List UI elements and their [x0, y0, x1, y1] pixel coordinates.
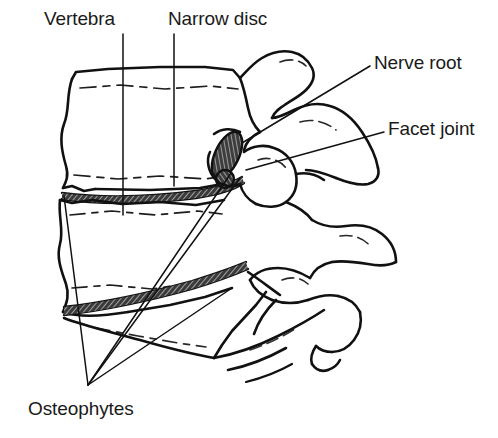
transverse-process [254, 300, 361, 371]
lower-body-endplate-texture [70, 211, 222, 289]
label-narrow-disc: Narrow disc [168, 9, 267, 28]
figure-root: Vertebra Narrow disc Nerve root Facet jo… [0, 0, 498, 438]
leader-nerve-root [242, 66, 370, 143]
spinous-process-lower-texture [282, 235, 370, 284]
spinous-process-lower [250, 220, 396, 312]
facet-joint-surface [240, 146, 324, 220]
label-osteophytes: Osteophytes [28, 399, 134, 418]
spinous-process-upper-texture [280, 60, 336, 130]
label-nerve-root: Nerve root [374, 53, 462, 72]
label-vertebra: Vertebra [44, 9, 115, 28]
leader-facet-joint [246, 132, 384, 170]
label-facet-joint: Facet joint [388, 119, 475, 138]
inferior-body-margins [214, 310, 324, 382]
spinous-process-upper [240, 51, 379, 184]
